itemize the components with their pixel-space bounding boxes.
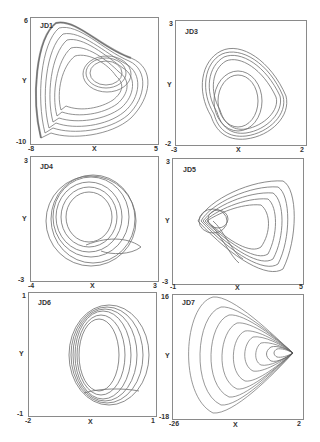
x-axis-label: X (233, 421, 238, 428)
x-min-label: -26 (169, 420, 179, 427)
y-min-label: -18 (159, 413, 169, 420)
panel-title: JD7 (182, 299, 195, 306)
y-max-label: 16 (161, 293, 169, 300)
trajectory-plot (173, 295, 303, 419)
plot-area (172, 294, 304, 420)
x-max-label: 2 (297, 420, 301, 427)
panel-jd7: JD7 16 Y -18 -26 X 2 (0, 0, 320, 442)
y-axis-label: Y (165, 352, 170, 359)
